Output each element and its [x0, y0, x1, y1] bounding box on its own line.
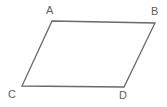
parallelogram-shape: [0, 0, 167, 107]
vertex-label-a: A: [46, 5, 54, 16]
vertex-label-b: B: [151, 6, 159, 17]
parallelogram-outline: [22, 21, 155, 87]
vertex-label-d: D: [119, 90, 127, 101]
figure-canvas: A B C D: [0, 0, 167, 107]
vertex-label-c: C: [8, 89, 16, 100]
